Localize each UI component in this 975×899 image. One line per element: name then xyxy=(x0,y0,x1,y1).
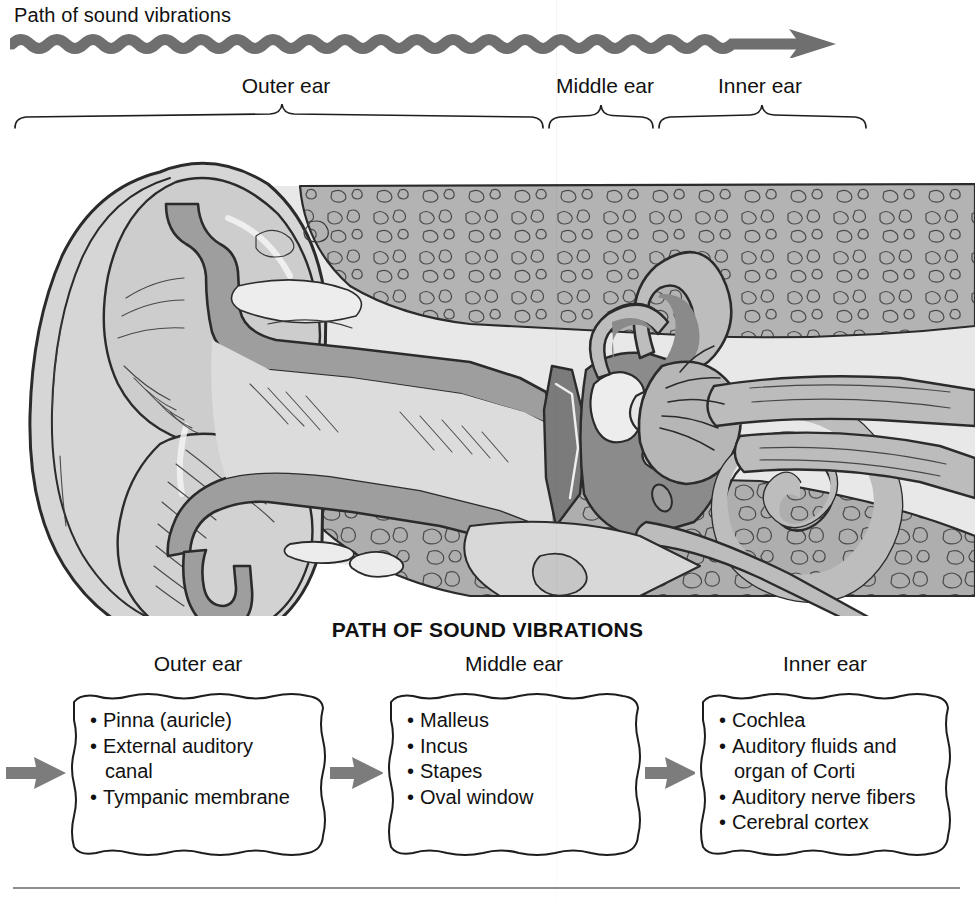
flow-column-header-outer-ear: Outer ear xyxy=(66,652,330,676)
list-item: Cerebral cortex xyxy=(719,810,945,836)
list-item: Oval window xyxy=(407,785,635,811)
list-item: Pinna (auricle) xyxy=(90,708,320,734)
list-item: Incus xyxy=(407,734,635,760)
wavy-right-arrow-icon xyxy=(10,24,870,58)
flow-box-inner-ear: Cochlea Auditory fluids and organ of Cor… xyxy=(695,692,955,858)
ear-cross-section-illustration xyxy=(0,126,975,616)
flowchart-title: PATH OF SOUND VIBRATIONS xyxy=(0,618,975,642)
list-item: External auditory canal xyxy=(90,734,320,785)
diagram-page: Path of sound vibrations Outer ear Middl… xyxy=(0,0,975,899)
list-item: Stapes xyxy=(407,759,635,785)
bottom-divider xyxy=(13,887,960,889)
region-label-outer-ear: Outer ear xyxy=(196,74,376,98)
flow-column-header-inner-ear: Inner ear xyxy=(695,652,955,676)
flow-arrow-icon-1 xyxy=(6,754,68,792)
flow-arrow-icon-3 xyxy=(637,754,699,792)
region-label-middle-ear: Middle ear xyxy=(520,74,690,98)
list-item: Malleus xyxy=(407,708,635,734)
flow-box-middle-ear: Malleus Incus Stapes Oval window xyxy=(383,692,645,858)
list-item: Tympanic membrane xyxy=(90,785,320,811)
list-item: Auditory fluids and organ of Corti xyxy=(719,734,945,785)
list-item: Cochlea xyxy=(719,708,945,734)
flow-arrow-icon-2 xyxy=(324,754,386,792)
list-item: Auditory nerve fibers xyxy=(719,785,945,811)
flow-list-middle-ear: Malleus Incus Stapes Oval window xyxy=(383,692,645,810)
flow-list-inner-ear: Cochlea Auditory fluids and organ of Cor… xyxy=(695,692,955,836)
flow-column-header-middle-ear: Middle ear xyxy=(383,652,645,676)
flow-list-outer-ear: Pinna (auricle) External auditory canal … xyxy=(66,692,330,810)
region-label-inner-ear: Inner ear xyxy=(680,74,840,98)
flow-box-outer-ear: Pinna (auricle) External auditory canal … xyxy=(66,692,330,858)
